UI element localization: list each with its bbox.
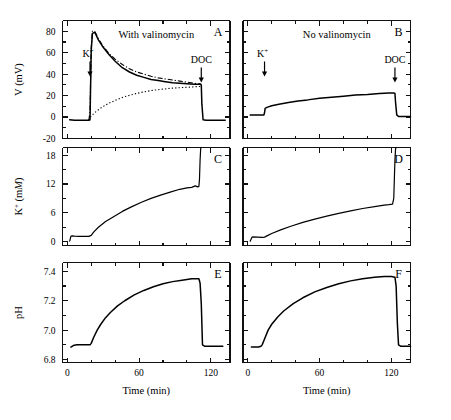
condition-label: No valinomycin <box>303 29 372 40</box>
condition-label: With valinomycin <box>118 29 194 40</box>
x-ticklabel: 0 <box>245 368 250 378</box>
x-ticklabel: 0 <box>65 368 70 378</box>
figure-container: -20020406080AWith valinomycinK+DOCBNo va… <box>0 0 451 420</box>
panel-letter-b: B <box>394 25 402 39</box>
k-superscript: + <box>264 47 268 55</box>
panel-letter-e: E <box>214 267 221 281</box>
panel-axes-c <box>63 148 231 246</box>
x-ticklabel: 60 <box>315 368 325 378</box>
y-ticklabel: 80 <box>46 27 56 37</box>
panel-c: 061218C <box>46 148 230 248</box>
y-ticklabel: -20 <box>43 134 56 144</box>
panel-axes-e <box>63 263 231 363</box>
y-axis-title-ph: pH <box>13 306 24 319</box>
trace-membrane-potential-solid <box>250 93 410 117</box>
y-ticklabel: 7.0 <box>44 326 56 336</box>
panel-e: 6.87.07.27.4060120E <box>44 263 230 378</box>
k-annotation-label: K+ <box>257 47 268 58</box>
y-ticklabel: 7.4 <box>44 267 56 277</box>
doc-arrowhead <box>392 78 397 83</box>
x-axis-title-right: Time (min) <box>303 385 351 397</box>
panel-b: BNo valinomycinK+DOC <box>243 21 411 139</box>
x-ticklabel: 120 <box>204 368 219 378</box>
y-ticklabel: 20 <box>46 91 56 101</box>
y-ticklabel: 0 <box>51 112 56 122</box>
panel-axes-d <box>243 148 411 246</box>
trace-external-ph <box>251 276 410 347</box>
y-ticklabel: 0 <box>51 237 56 247</box>
panel-axes-f <box>243 263 411 363</box>
y-axis-title-voltage: V (mV) <box>13 63 25 96</box>
y-ticklabel: 6 <box>51 208 56 218</box>
k-arrowhead <box>262 72 267 77</box>
trace-secondary-potential-dotted <box>89 86 201 120</box>
trace-model-prediction-dashdot <box>89 31 201 120</box>
panel-letter-c: C <box>214 152 222 166</box>
x-ticklabel: 60 <box>134 368 144 378</box>
y-ticklabel: 40 <box>46 70 56 80</box>
panel-f: 060120F <box>243 263 411 378</box>
trace-potassium-concentration <box>250 148 396 242</box>
x-ticklabel: 120 <box>384 368 399 378</box>
k-title-units-close: ) <box>13 177 25 181</box>
panel-letter-a: A <box>214 25 223 39</box>
doc-arrowhead <box>199 78 204 83</box>
y-ticklabel: 18 <box>46 151 56 161</box>
trace-external-ph <box>71 279 223 347</box>
panel-letter-d: D <box>394 152 403 166</box>
k-arrowhead <box>87 72 92 77</box>
panel-a: -20020406080AWith valinomycinK+DOC <box>43 21 230 144</box>
y-ticklabel: 12 <box>46 179 56 189</box>
x-axis-title-left: Time (min) <box>122 385 170 397</box>
k-annotation-label: K+ <box>82 47 93 58</box>
doc-annotation-label: DOC <box>384 54 405 65</box>
trace-potassium-concentration <box>70 148 202 242</box>
y-ticklabel: 7.2 <box>44 296 56 306</box>
multi-panel-figure: -20020406080AWith valinomycinK+DOCBNo va… <box>0 0 451 420</box>
k-title-units-open: (m <box>13 190 25 204</box>
k-superscript: + <box>90 47 94 55</box>
y-axis-title-potassium: K+ (mM) <box>13 177 25 216</box>
y-ticklabel: 6.8 <box>44 355 56 365</box>
y-ticklabel: 60 <box>46 48 56 58</box>
doc-annotation-label: DOC <box>191 54 212 65</box>
panel-letter-f: F <box>395 267 402 281</box>
panel-d: D <box>243 148 411 246</box>
